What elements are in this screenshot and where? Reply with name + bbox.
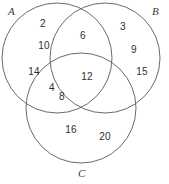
set-label-c: C <box>78 168 85 179</box>
region-value-c-only-2: 20 <box>99 132 111 142</box>
region-value-a-and-b-1: 6 <box>80 31 86 41</box>
region-value-c-only-1: 16 <box>65 125 77 135</box>
set-label-b: B <box>152 6 159 17</box>
region-value-a-only-3: 14 <box>28 67 40 77</box>
venn-circles-svg <box>0 0 169 184</box>
region-value-a-only-1: 2 <box>40 19 46 29</box>
region-value-b-only-1: 3 <box>120 22 126 32</box>
set-label-a: A <box>8 6 15 17</box>
circle-set-c <box>26 53 136 163</box>
region-value-a-and-c-2: 8 <box>59 92 65 102</box>
circle-set-a <box>2 3 112 113</box>
region-value-b-only-3: 15 <box>136 67 148 77</box>
region-value-a-only-2: 10 <box>38 41 50 51</box>
region-value-a-and-c-1: 4 <box>49 83 55 93</box>
venn-diagram-figure: A B C 2 10 14 3 9 15 6 4 8 12 16 20 <box>0 0 169 184</box>
region-value-a-b-c-1: 12 <box>81 72 93 82</box>
circle-set-b <box>50 3 160 113</box>
region-value-b-only-2: 9 <box>131 45 137 55</box>
